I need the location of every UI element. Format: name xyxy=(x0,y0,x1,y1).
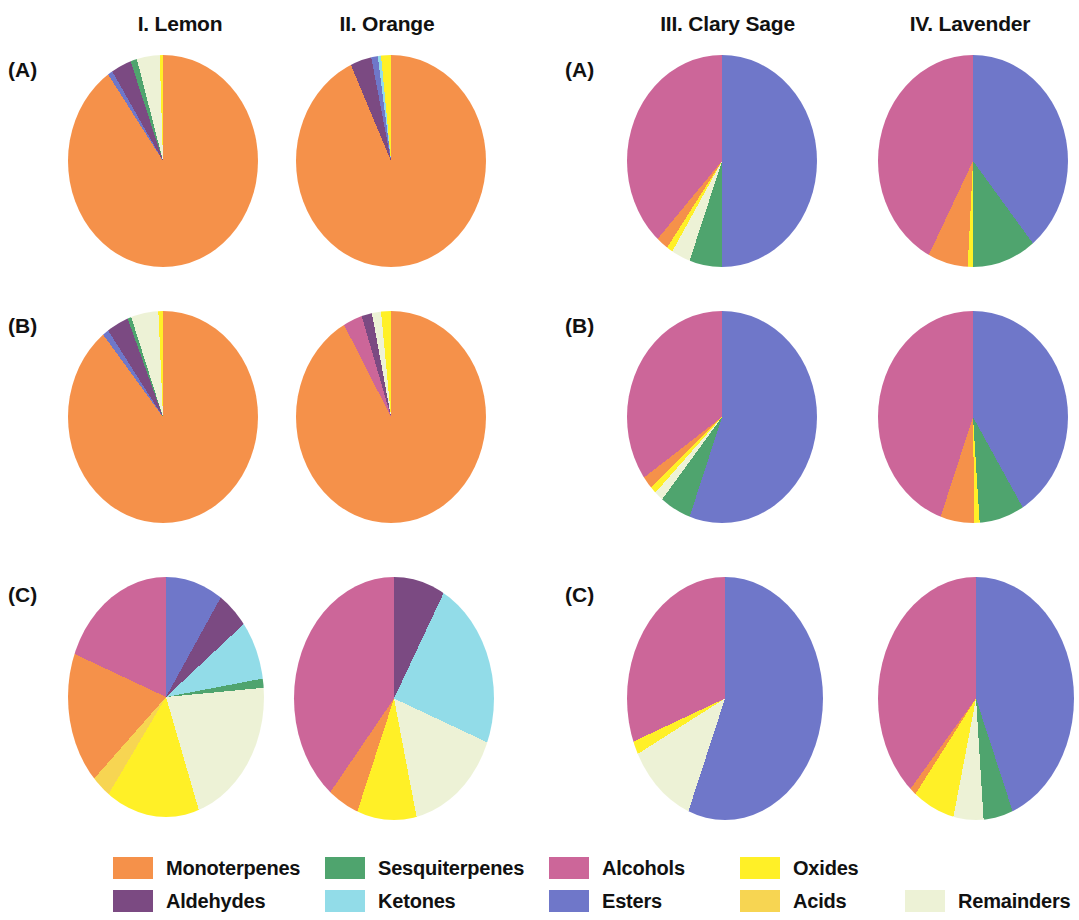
legend-swatch-monoterpenes xyxy=(113,857,153,879)
row-label-c-mid: (C) xyxy=(565,583,594,607)
legend-swatch-ketones xyxy=(325,890,365,912)
legend-item-remainders: Remainders xyxy=(905,890,1071,912)
legend-label-acids: Acids xyxy=(793,890,846,912)
pie-orange-b xyxy=(296,311,486,523)
column-header-lemon: I. Lemon xyxy=(75,12,285,36)
row-label-b-mid: (B) xyxy=(565,314,594,338)
legend-label-alcohols: Alcohols xyxy=(602,857,685,879)
pie-slices xyxy=(68,311,258,523)
legend-item-alcohols: Alcohols xyxy=(549,857,685,879)
legend-item-oxides: Oxides xyxy=(740,857,859,879)
legend-swatch-oxides xyxy=(740,857,780,879)
pie-lavender-a xyxy=(878,55,1068,267)
legend-item-monoterpenes: Monoterpenes xyxy=(113,857,300,879)
pie-clary-sage-c xyxy=(627,577,823,820)
pie-slices xyxy=(627,311,817,523)
pie-slices xyxy=(878,577,1074,820)
legend: Monoterpenes Aldehydes Sesquiterpenes Ke… xyxy=(0,856,1079,920)
pie-slices xyxy=(878,311,1068,523)
pie-clary-sage-a xyxy=(627,55,817,267)
pie-slices xyxy=(878,55,1068,267)
legend-item-acids: Acids xyxy=(740,890,846,912)
legend-label-esters: Esters xyxy=(602,890,662,912)
legend-label-oxides: Oxides xyxy=(793,857,859,879)
pie-slices xyxy=(627,577,823,820)
legend-label-aldehydes: Aldehydes xyxy=(166,890,265,912)
legend-item-esters: Esters xyxy=(549,890,662,912)
legend-label-sesquiterpenes: Sesquiterpenes xyxy=(378,857,524,879)
legend-swatch-acids xyxy=(740,890,780,912)
legend-item-sesquiterpenes: Sesquiterpenes xyxy=(325,857,524,879)
pie-clary-sage-b xyxy=(627,311,817,523)
pie-slices xyxy=(296,55,486,267)
row-label-c-left: (C) xyxy=(8,583,37,607)
pie-slices xyxy=(627,55,817,267)
pie-slices xyxy=(294,577,494,820)
legend-item-aldehydes: Aldehydes xyxy=(113,890,265,912)
legend-item-ketones: Ketones xyxy=(325,890,456,912)
legend-swatch-alcohols xyxy=(549,857,589,879)
pie-slices xyxy=(296,311,486,523)
pie-lemon-b xyxy=(68,311,258,523)
pie-orange-a xyxy=(296,55,486,267)
legend-label-monoterpenes: Monoterpenes xyxy=(166,857,300,879)
pie-lavender-b xyxy=(878,311,1068,523)
pie-slices xyxy=(68,577,264,817)
pie-chart-figure: I. Lemon II. Orange III. Clary Sage IV. … xyxy=(0,0,1079,920)
pie-slices xyxy=(68,55,258,267)
legend-swatch-esters xyxy=(549,890,589,912)
column-header-clary-sage: III. Clary Sage xyxy=(620,12,835,36)
pie-lavender-c xyxy=(878,577,1074,820)
row-label-a-mid: (A) xyxy=(565,58,594,82)
column-header-orange: II. Orange xyxy=(282,12,492,36)
legend-label-remainders: Remainders xyxy=(958,890,1071,912)
legend-label-ketones: Ketones xyxy=(378,890,456,912)
legend-swatch-remainders xyxy=(905,890,945,912)
row-label-b-left: (B) xyxy=(8,314,37,338)
pie-lemon-a xyxy=(68,55,258,267)
legend-swatch-sesquiterpenes xyxy=(325,857,365,879)
legend-swatch-aldehydes xyxy=(113,890,153,912)
row-label-a-left: (A) xyxy=(8,58,37,82)
column-header-lavender: IV. Lavender xyxy=(865,12,1075,36)
pie-lemon-c xyxy=(68,577,264,817)
pie-orange-c xyxy=(294,577,494,820)
